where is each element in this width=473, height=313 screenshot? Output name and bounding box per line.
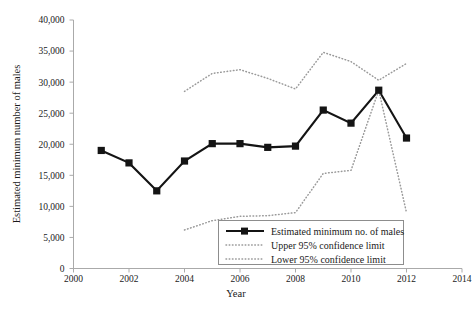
x-tick-label: 2008 [286,274,305,284]
x-tick-label: 2012 [397,274,416,284]
data-point-marker [292,143,299,150]
y-axis-tick-labels: 05,00010,00015,00020,00025,00030,00035,0… [38,15,64,274]
x-tick-label: 2014 [453,274,472,284]
data-point-marker [264,144,271,151]
y-axis-tick-marks [70,20,74,269]
legend-swatch-square-marker [241,228,248,235]
data-point-marker [375,87,382,94]
data-point-marker [236,140,243,147]
y-tick-label: 15,000 [38,171,64,181]
line-chart-canvas: 05,00010,00015,00020,00025,00030,00035,0… [0,0,473,313]
legend-label-estimated-minimum: Estimated minimum no. of males [271,226,404,237]
y-tick-label: 5,000 [43,233,65,243]
legend-label-lower-confidence: Lower 95% confidence limit [271,254,386,265]
data-point-marker [320,106,327,113]
y-tick-label: 40,000 [38,15,64,25]
series-path-2 [185,90,407,230]
data-series-layer [101,52,406,230]
x-tick-label: 2006 [231,274,250,284]
data-point-marker [181,157,188,164]
data-point-marker [153,187,160,194]
data-point-marker [98,147,105,154]
data-point-marker [209,140,216,147]
series-path-1 [185,52,407,91]
data-point-marker [347,120,354,127]
x-tick-label: 2002 [120,274,139,284]
chart-figure: 05,00010,00015,00020,00025,00030,00035,0… [0,0,473,313]
x-tick-label: 2004 [175,274,194,284]
y-tick-label: 25,000 [38,109,64,119]
x-axis-title: Year [226,288,246,299]
series-path-0 [101,90,406,191]
data-point-marker [403,134,410,141]
y-tick-label: 10,000 [38,202,64,212]
data-point-marker [125,159,132,166]
chart-legend: Estimated minimum no. of males Upper 95%… [219,221,405,265]
x-tick-label: 2010 [342,274,361,284]
legend-label-upper-confidence: Upper 95% confidence limit [271,240,385,251]
x-axis-tick-labels: 20002002200420062008201020122014 [64,274,472,284]
y-tick-label: 30,000 [38,78,64,88]
y-axis-title: Estimated minimum number of males [11,65,22,224]
y-tick-label: 0 [60,264,65,274]
y-tick-label: 20,000 [38,140,64,150]
x-axis-tick-marks [74,269,463,273]
y-tick-label: 35,000 [38,46,64,56]
x-tick-label: 2000 [64,274,83,284]
